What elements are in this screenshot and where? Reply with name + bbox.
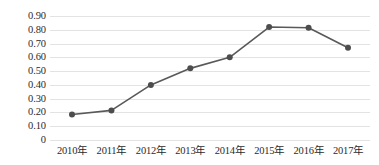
- data-point: [187, 65, 193, 71]
- data-point: [266, 24, 272, 30]
- series-markers: [69, 24, 351, 117]
- data-point: [227, 54, 233, 60]
- data-series-layer: [0, 0, 379, 165]
- data-point: [69, 112, 75, 118]
- line-chart: 00.100.200.300.400.500.600.700.800.90 20…: [0, 0, 379, 165]
- data-point: [108, 107, 114, 113]
- data-point: [148, 82, 154, 88]
- data-point: [306, 25, 312, 31]
- data-point: [345, 45, 351, 51]
- series-line: [72, 27, 348, 114]
